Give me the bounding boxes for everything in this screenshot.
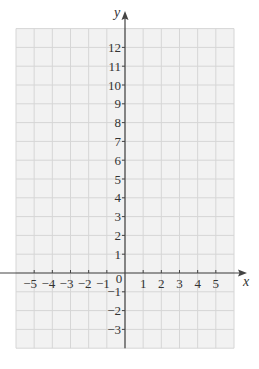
x-tick-label: −2 xyxy=(78,276,92,291)
x-axis-label: x xyxy=(242,274,250,289)
y-tick-label: 5 xyxy=(115,172,122,187)
coordinate-grid: −5−4−3−2−1012345 −3−2−1123456789101112 x… xyxy=(0,0,259,369)
y-tick-label: −2 xyxy=(107,303,121,318)
y-axis-label: y xyxy=(112,5,121,20)
y-tick-label: 10 xyxy=(108,78,121,93)
x-tick-label: −5 xyxy=(23,276,37,291)
y-tick-label: 12 xyxy=(108,40,121,55)
x-tick-label: −3 xyxy=(60,276,74,291)
x-tick-label: 2 xyxy=(158,276,165,291)
y-tick-label: 9 xyxy=(115,96,122,111)
x-tick-label: 5 xyxy=(213,276,220,291)
y-tick-label: 4 xyxy=(115,190,122,205)
y-tick-label: −3 xyxy=(107,322,121,337)
y-tick-label: 1 xyxy=(115,247,122,262)
x-tick-label: 4 xyxy=(194,276,201,291)
y-tick-label: 8 xyxy=(115,115,122,130)
y-tick-label: 6 xyxy=(115,153,122,168)
y-tick-label: 7 xyxy=(115,134,122,149)
y-tick-label: −1 xyxy=(107,284,121,299)
x-tick-label: 1 xyxy=(140,276,147,291)
x-tick-label: 3 xyxy=(176,276,183,291)
y-tick-label: 11 xyxy=(108,59,121,74)
x-tick-label: −4 xyxy=(41,276,55,291)
y-tick-label: 2 xyxy=(115,228,122,243)
y-tick-label: 3 xyxy=(115,209,122,224)
